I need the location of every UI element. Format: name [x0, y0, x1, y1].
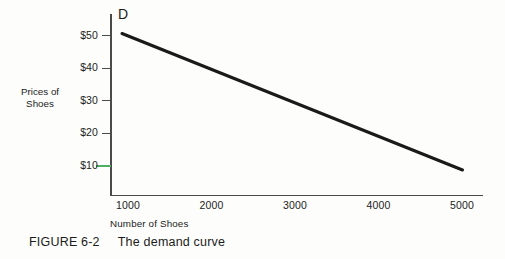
y-tick-label-20: $20 — [38, 126, 98, 138]
y-tick-label-40: $40 — [38, 61, 98, 73]
x-tick-label-5000: 5000 — [432, 199, 492, 211]
y-tick-mark-20 — [102, 133, 111, 134]
x-axis-title: Number of Shoes — [110, 218, 189, 229]
x-tick-label-3000: 3000 — [265, 199, 325, 211]
figure-caption-text: The demand curve — [118, 235, 225, 249]
y-axis-title: Prices of Shoes — [8, 86, 72, 110]
y-tick-label-50: $50 — [38, 29, 98, 41]
x-tick-label-1000: 1000 — [98, 199, 158, 211]
y-tick-mark-40 — [102, 68, 111, 69]
figure-caption: FIGURE 6-2 The demand curve — [29, 235, 225, 249]
y-tick-label-10: $10 — [38, 159, 98, 171]
figure-canvas: $50 $40 $30 $20 $10 1000 2000 3000 4000 … — [0, 0, 505, 259]
figure-caption-number: FIGURE 6-2 — [29, 235, 100, 249]
y-tick-mark-30 — [102, 100, 111, 101]
y-axis-line — [110, 14, 112, 196]
x-tick-label-2000: 2000 — [182, 199, 242, 211]
y-tick-mark-50 — [102, 35, 111, 36]
plot-area: $50 $40 $30 $20 $10 1000 2000 3000 4000 … — [0, 0, 505, 259]
x-axis-line — [110, 195, 483, 197]
y-tick-mark-10-highlight — [96, 165, 111, 167]
x-tick-label-4000: 4000 — [349, 199, 409, 211]
demand-curve-label-d: D — [118, 6, 128, 22]
